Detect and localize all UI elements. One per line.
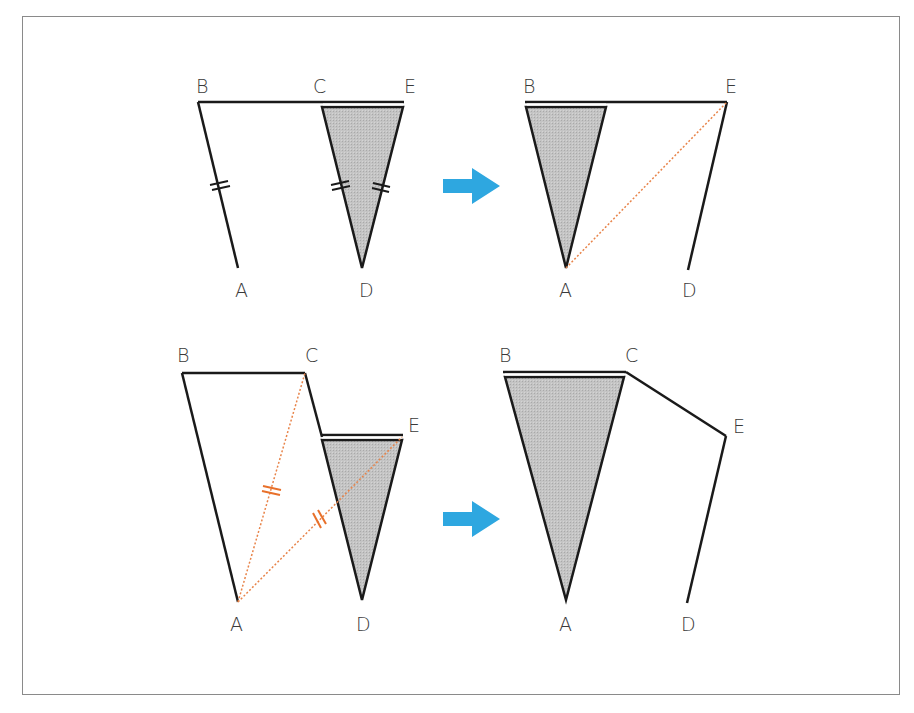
label-C: C (305, 344, 318, 366)
label-B: B (177, 344, 189, 366)
label-A: A (230, 613, 243, 635)
label-D: D (682, 279, 697, 301)
panel-top-left: B C E A D (196, 75, 416, 301)
label-A: A (559, 279, 572, 301)
segment-ED (687, 436, 726, 603)
segment-CE (626, 372, 726, 436)
label-B: B (196, 75, 208, 97)
right-arrow-icon (443, 168, 500, 204)
panel-bottom-right: B C E A D (499, 344, 745, 635)
segment-C-to-triangle (305, 373, 322, 437)
label-B: B (523, 75, 535, 97)
label-E: E (404, 75, 416, 97)
label-E: E (725, 75, 737, 97)
segment-BA (198, 102, 238, 268)
label-D: D (359, 279, 374, 301)
label-A: A (559, 613, 572, 635)
shaded-triangle-CED (322, 107, 403, 268)
segment-ED (688, 102, 727, 270)
shaded-triangle-BCA (526, 107, 606, 268)
label-C: C (625, 344, 638, 366)
right-arrow-icon (443, 501, 500, 537)
label-D: D (356, 613, 371, 635)
segment-BA (182, 373, 238, 602)
label-E: E (733, 415, 745, 437)
panel-top-right: B E A D (523, 75, 737, 301)
equal-tick-BA (210, 181, 230, 190)
shaded-triangle-BCA (505, 377, 624, 600)
shaded-triangle-EDC (322, 440, 402, 600)
label-A: A (235, 279, 248, 301)
label-D: D (681, 613, 696, 635)
label-C: C (313, 75, 326, 97)
equal-tick-AC (262, 486, 281, 495)
label-B: B (499, 344, 511, 366)
panel-bottom-left: B C E A D (177, 344, 420, 635)
label-E: E (408, 414, 420, 436)
geometry-diagram: B C E A D B E A D (0, 0, 914, 713)
